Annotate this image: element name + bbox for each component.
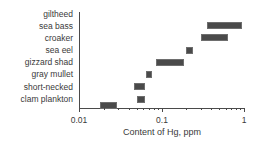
x-tick-major-0.01 [79,108,80,112]
bar-gizzard-shad [146,71,152,78]
y-label-sea-eel: sea eel [0,44,76,56]
bar-croaker [186,47,193,54]
chart-screenshot: giltheed sea bass croaker sea eel gizzar… [0,0,264,144]
y-label-clam-plankton: clam plankton [0,93,76,105]
y-axis-line [79,12,80,108]
bar-clam-plankton [100,102,117,109]
plot-area: 0.01 0.1 1 [79,12,244,108]
x-tick-minor-0.09 [158,108,159,110]
x-tick-minor-0.06 [143,108,144,110]
x-tick-minor-0.2 [186,108,187,110]
x-tick-minor-0.8 [236,108,237,110]
x-tick-major-1 [244,108,245,112]
x-tick-minor-0.07 [149,108,150,110]
bar-gray-mullet [134,83,145,90]
bar-sea-bass [201,34,228,41]
x-tick-minor-0.5 [219,108,220,110]
x-tick-minor-0.04 [129,108,130,110]
bar-sea-eel [156,59,184,66]
x-axis-title: Content of Hg, ppm [79,127,245,138]
x-tick-minor-0.02 [104,108,105,110]
y-label-croaker: croaker [0,32,76,44]
x-tick-minor-0.7000000000000001 [231,108,232,110]
x-tick-major-0.1 [162,108,163,112]
x-tick-label-1: 1 [242,115,247,125]
x-tick-minor-0.9 [240,108,241,110]
x-tick-minor-0.6000000000000001 [226,108,227,110]
x-tick-minor-0.05 [137,108,138,110]
x-tick-minor-0.4 [211,108,212,110]
x-tick-label-0-01: 0.01 [71,115,88,125]
x-tick-minor-0.08 [154,108,155,110]
bar-short-necked [137,96,145,103]
y-label-gray-mullet: gray mullet [0,68,76,80]
y-label-sea-bass: sea bass [0,20,76,32]
x-tick-label-0-1: 0.1 [156,115,168,125]
bar-giltheed [207,22,242,29]
y-label-short-necked: short-necked [0,81,76,93]
x-tick-minor-0.30000000000000004 [201,108,202,110]
x-tick-minor-0.03 [118,108,119,110]
y-label-giltheed: giltheed [0,8,76,20]
y-label-gizzard-shad: gizzard shad [0,56,76,68]
y-axis-category-labels: giltheed sea bass croaker sea eel gizzar… [0,8,76,105]
